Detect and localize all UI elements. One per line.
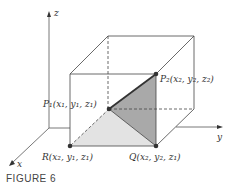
y-axis-label: y [216, 132, 223, 142]
figure-diagram: z y x P₂(x₂, y₂, z₂) P₁(x₁, y₁, z₁) R(x₂… [0, 0, 230, 185]
y-axis-arrow-icon [217, 125, 223, 129]
p2-label: P₂(x₂, y₂, z₂) [159, 74, 214, 84]
p1-label: P₁(x₁, y₁, z₁) [42, 99, 97, 109]
z-axis-label: z [53, 8, 59, 18]
q-label: Q(x₂, y₂, z₁) [129, 152, 181, 162]
point-p2 [154, 72, 159, 77]
point-r [68, 144, 73, 149]
point-p1 [107, 107, 112, 112]
x-axis-label: x [17, 159, 22, 169]
point-q [154, 144, 159, 149]
r-label: R(x₂, y₁, z₁) [41, 152, 93, 162]
z-axis-arrow-icon [47, 11, 51, 17]
figure-caption: FIGURE 6 [6, 173, 56, 184]
